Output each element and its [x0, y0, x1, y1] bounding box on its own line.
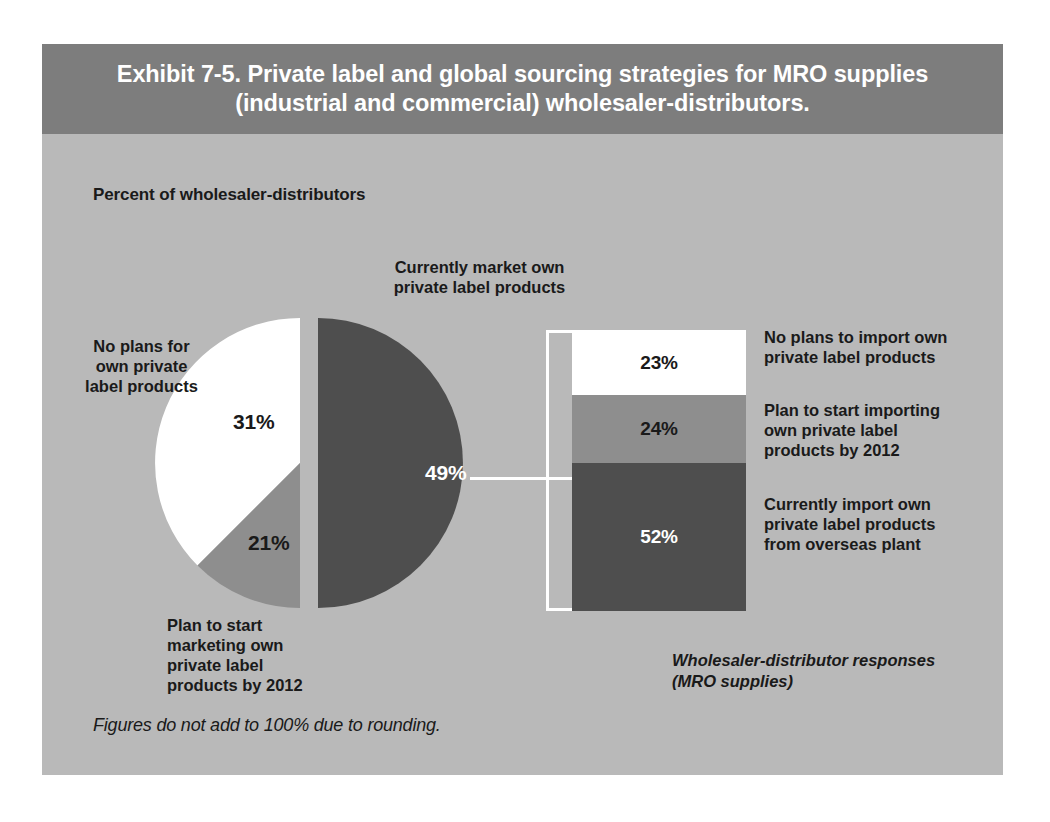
chart-subtitle: Percent of wholesaler-distributors	[93, 185, 365, 205]
bar-label-plan-to-import-line-1: Plan to start importing	[764, 401, 940, 419]
bar-label-plan-to-import: Plan to start importing own private labe…	[764, 400, 999, 460]
bar-label-plan-to-import-line-3: products by 2012	[764, 441, 900, 459]
bar-label-currently-import-line-3: from overseas plant	[764, 535, 921, 553]
pie-label-plan-to-start-line-2: marketing own	[167, 636, 283, 654]
bar-label-no-plans-import-line-1: No plans to import own	[764, 328, 947, 346]
bar-segment-no-plans-import: 23%	[572, 330, 746, 395]
footer-note: Figures do not add to 100% due to roundi…	[93, 715, 441, 736]
pie-label-no-plans: No plans for own private label products	[59, 336, 224, 396]
pie-label-no-plans-line-1: No plans for	[93, 337, 189, 355]
pie-label-plan-to-start-line-1: Plan to start	[167, 616, 262, 634]
exhibit-title-line-1: Exhibit 7-5. Private label and global so…	[117, 61, 928, 87]
bar-label-currently-import-line-1: Currently import own	[764, 495, 931, 513]
exhibit-title-line-2: (industrial and commercial) wholesaler-d…	[235, 90, 810, 116]
bar-label-plan-to-import-line-2: own private label	[764, 421, 898, 439]
bar-label-currently-import: Currently import own private label produ…	[764, 494, 999, 554]
pie-value-31: 31%	[233, 410, 274, 434]
exhibit-header-band: Exhibit 7-5. Private label and global so…	[42, 44, 1003, 134]
bar-label-no-plans-import-line-2: private label products	[764, 348, 935, 366]
pie-label-plan-to-start-line-4: products by 2012	[167, 676, 303, 694]
bar-value-23: 23%	[640, 352, 677, 374]
pie-label-currently-market-line-1: Currently market own	[395, 258, 565, 276]
source-note-line-2: (MRO supplies)	[672, 672, 793, 690]
pie-value-21: 21%	[248, 531, 289, 555]
pie-label-plan-to-start-line-3: private label	[167, 656, 263, 674]
exhibit-figure: Exhibit 7-5. Private label and global so…	[0, 0, 1050, 822]
source-note-line-1: Wholesaler-distributor responses	[672, 651, 935, 669]
exhibit-title: Exhibit 7-5. Private label and global so…	[58, 60, 988, 118]
pie-label-currently-market: Currently market own private label produ…	[372, 257, 587, 297]
bar-label-currently-import-line-2: private label products	[764, 515, 935, 533]
source-note: Wholesaler-distributor responses (MRO su…	[672, 650, 935, 692]
bar-value-52: 52%	[640, 526, 677, 548]
pie-value-49: 49%	[425, 461, 466, 485]
bar-label-no-plans-import: No plans to import own private label pro…	[764, 327, 999, 367]
pie-label-no-plans-line-2: own private	[96, 357, 188, 375]
bar-segment-plan-to-import: 24%	[572, 395, 746, 463]
pie-label-currently-market-line-2: private label products	[394, 278, 565, 296]
bar-value-24: 24%	[640, 418, 677, 440]
bar-segment-currently-import: 52%	[572, 463, 746, 611]
callout-bracket	[546, 330, 572, 611]
pie-label-no-plans-line-3: label products	[85, 377, 198, 395]
pie-label-plan-to-start: Plan to start marketing own private labe…	[167, 615, 382, 695]
stacked-bar-chart: 23% 24% 52%	[572, 330, 746, 611]
